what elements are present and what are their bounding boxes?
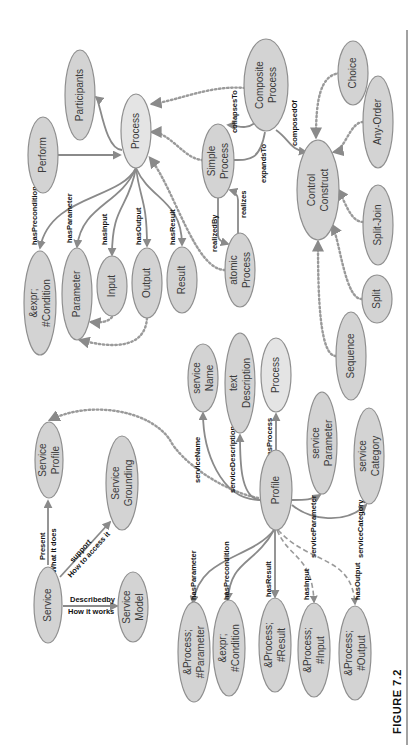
node-split-join: Split-Join (363, 185, 393, 265)
label-p-hasResult: hasResult (264, 561, 273, 597)
node-service-name: service Name (188, 344, 218, 412)
node-result: Result (167, 247, 197, 313)
svg-text:atomic: atomic (228, 255, 239, 284)
svg-text:&expr;: &expr; (217, 634, 228, 663)
figure-caption: FIGURE 7.2 (391, 669, 403, 734)
label-composedOf: composedOf (290, 100, 299, 146)
label-expandsTo: expandsTo (259, 144, 268, 183)
node-output: Output (132, 248, 162, 318)
label-p-hasInput: hasInput (302, 568, 311, 600)
label-serviceCategory: serviceCategory (356, 499, 365, 558)
svg-text:Simple: Simple (206, 145, 217, 176)
label-present: Present (38, 532, 47, 560)
svg-text:&Process;: &Process; (302, 627, 313, 673)
label-hasOutput: hasOutput (134, 207, 143, 245)
node-profile: Profile (260, 450, 292, 530)
svg-text:#Input: #Input (315, 636, 326, 664)
label-p-hasParameter: hasParameter (189, 550, 198, 600)
svg-text:Grounding: Grounding (123, 460, 134, 507)
node-service-parameter: service Parameter (307, 392, 337, 494)
svg-text:Result: Result (176, 266, 187, 295)
svg-text:Service: Service (37, 443, 48, 477)
label-hasParameter: hasParameter (65, 193, 74, 243)
node-expr-condition-top: &expr; #Condition (24, 251, 56, 355)
node-text-description: text Description (225, 333, 255, 433)
svg-text:Participants: Participants (74, 69, 85, 121)
svg-text:#Output: #Output (356, 635, 367, 671)
svg-text:&expr;: &expr; (28, 289, 39, 318)
node-process-output: &Process; #Output (339, 606, 371, 700)
svg-text:Perform: Perform (37, 137, 48, 173)
node-split: Split (362, 275, 392, 323)
label-describedby: Describedby (70, 595, 116, 604)
svg-text:Input: Input (106, 275, 117, 297)
label-serviceDescription: serviceDescription (228, 425, 237, 493)
node-atomic-process: atomic Process (225, 233, 255, 307)
label-hasPrecondition: hasPrecondition (30, 186, 39, 245)
svg-text:#Parameter: #Parameter (195, 625, 206, 678)
svg-text:Split: Split (371, 289, 382, 309)
svg-text:Description: Description (241, 358, 252, 408)
label-how-it-works: How it works (68, 607, 114, 616)
svg-text:Parameter: Parameter (71, 270, 82, 317)
label-what-it-does: What it does (49, 528, 58, 573)
svg-text:Process: Process (267, 67, 278, 103)
svg-text:service: service (310, 427, 321, 459)
node-process-result: &Process; #Result (259, 598, 291, 692)
svg-text:#Result: #Result (276, 628, 287, 662)
svg-text:service: service (191, 362, 202, 394)
node-perform: Perform (28, 117, 58, 193)
node-service-category: service Category (354, 408, 384, 504)
svg-text:Model: Model (134, 593, 145, 620)
svg-text:Sequence: Sequence (345, 333, 356, 378)
label-collapsesTo: collapsesTo (230, 90, 239, 133)
svg-text:#Condition: #Condition (230, 624, 241, 672)
svg-text:Process: Process (241, 252, 252, 288)
node-process-input: &Process; #Input (298, 603, 330, 697)
svg-text:Service: Service (42, 588, 53, 622)
svg-text:Profile: Profile (270, 475, 281, 504)
node-parameter: Parameter (62, 248, 92, 340)
label-serviceParameter: serviceParameter (309, 495, 318, 558)
svg-text:Control: Control (306, 174, 317, 206)
node-any-order: Any-Order (363, 76, 393, 168)
svg-text:Service: Service (121, 590, 132, 624)
svg-text:Any-Order: Any-Order (372, 98, 383, 145)
svg-text:Profile: Profile (50, 445, 61, 474)
label-p-hasPrecondition: hasPrecondition (222, 541, 231, 600)
node-process-top: Process (121, 94, 151, 168)
node-sequence: Sequence (336, 312, 366, 400)
svg-text:Process: Process (130, 113, 141, 149)
label-realizes: realizes (239, 190, 248, 218)
svg-text:&Process;: &Process; (343, 630, 354, 676)
svg-text:Category: Category (370, 436, 381, 477)
svg-text:service: service (357, 440, 368, 472)
svg-text:&Process;: &Process; (182, 629, 193, 675)
svg-text:Parameter: Parameter (323, 419, 334, 466)
svg-text:#Condition: #Condition (41, 279, 52, 327)
svg-text:text: text (228, 375, 239, 391)
svg-text:Choice: Choice (347, 57, 358, 89)
svg-text:Process: Process (219, 143, 230, 179)
node-service-profile: Service Profile (35, 422, 63, 498)
svg-text:Service: Service (110, 466, 121, 500)
owl-s-ontology-diagram: hasPrecondition hasParameter hasInput ha… (0, 0, 417, 745)
node-input: Input (97, 256, 127, 316)
node-composite-process: Composite Process (244, 39, 288, 131)
svg-text:Construct: Construct (319, 168, 330, 211)
svg-text:Composite: Composite (254, 61, 265, 109)
node-choice: Choice (338, 41, 368, 105)
node-participants: Participants (65, 50, 95, 140)
svg-text:Output: Output (141, 268, 152, 298)
node-simple-process: Simple Process (202, 124, 234, 198)
node-control-construct: Control Construct (297, 140, 339, 240)
label-p-hasOutput: hasOutput (353, 562, 362, 600)
svg-text:Process: Process (270, 357, 281, 393)
node-process-bottom: Process (261, 338, 291, 412)
svg-text:Split-Join: Split-Join (372, 204, 383, 245)
label-hasInput: hasInput (100, 213, 109, 245)
svg-text:&Process;: &Process; (263, 622, 274, 668)
label-serviceName: serviceName (193, 437, 202, 483)
label-hasResult: hasResult (168, 209, 177, 245)
node-service-model: Service Model (118, 572, 148, 642)
